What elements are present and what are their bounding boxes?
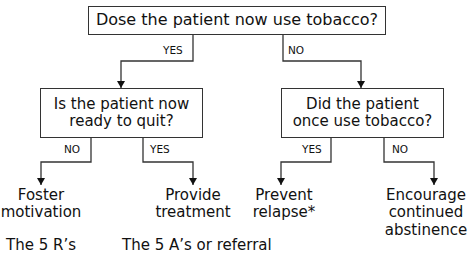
root-no-label: NO xyxy=(288,44,304,56)
root-yes-label: YES xyxy=(163,44,183,56)
root-question-box: Dose the patient now use tobacco? xyxy=(88,6,386,35)
ready-to-quit-line1: Is the patient now xyxy=(54,96,190,113)
right-yes-label: YES xyxy=(302,143,322,155)
outcome-line: Encourage xyxy=(381,187,470,204)
once-used-question-box: Did the patient once use tobacco? xyxy=(281,88,444,138)
outcome-line: relapse* xyxy=(246,204,322,221)
outcome-prevent-relapse: Prevent relapse* xyxy=(246,187,322,222)
outcome-line: abstinence xyxy=(381,222,470,239)
outcome-line: motivation xyxy=(0,204,82,221)
right-no-label: NO xyxy=(392,143,408,155)
ready-to-quit-line2: ready to quit? xyxy=(54,113,190,130)
ready-to-quit-question-box: Is the patient now ready to quit? xyxy=(40,88,203,138)
outcome-foster-motivation: Foster motivation xyxy=(0,187,82,222)
outcome-provide-treatment: Provide treatment xyxy=(150,187,236,222)
outcome-encourage-abstinence: Encourage continued abstinence xyxy=(381,187,470,239)
once-used-line1: Did the patient xyxy=(293,96,433,113)
outcome-line: continued xyxy=(381,204,470,221)
outcome-sub-5as: The 5 A’s or referral xyxy=(122,236,272,254)
outcome-sub-5rs: The 5 R’s xyxy=(0,236,82,254)
outcome-line: Prevent xyxy=(246,187,322,204)
outcome-line: Foster xyxy=(0,187,82,204)
once-used-line2: once use tobacco? xyxy=(293,113,433,130)
outcome-line: treatment xyxy=(150,204,236,221)
left-no-label: NO xyxy=(64,143,80,155)
outcome-line: Provide xyxy=(150,187,236,204)
left-yes-label: YES xyxy=(150,143,170,155)
root-question-text: Dose the patient now use tobacco? xyxy=(96,11,378,29)
